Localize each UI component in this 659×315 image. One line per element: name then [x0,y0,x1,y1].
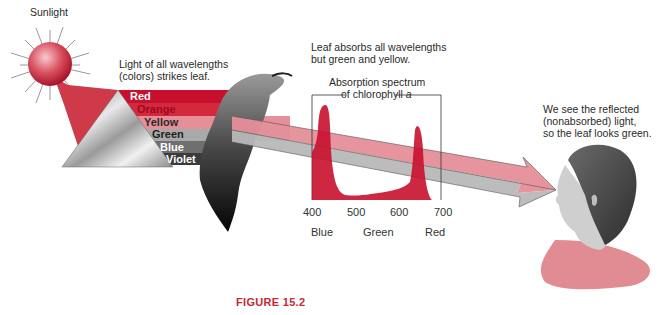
band-label-green: Green [152,128,184,140]
region-green: Green [363,226,394,238]
tick-700: 700 [434,206,452,218]
region-red: Red [425,226,445,238]
figure-caption: FIGURE 15.2 [236,296,305,308]
band-label-blue: Blue [160,141,184,153]
band-label-red: Red [130,90,151,102]
see-label-line1: We see the reflected [543,103,639,115]
spectrum-title-italic: a [406,88,412,100]
tick-500: 500 [347,206,365,218]
spectrum-title-text: of chlorophyll [341,88,403,100]
strike-label-line1: Light of all wavelengths [119,58,228,70]
sunlight-label: Sunlight [30,6,68,18]
absorb-label-line2: but green and yellow. [311,53,410,65]
spectrum-title-line2: of chlorophyll a [341,88,412,100]
absorb-label-line1: Leaf absorbs all wavelengths [311,41,446,53]
band-label-yellow: Yellow [144,116,178,128]
strike-label-line2: (colors) strikes leaf. [119,70,210,82]
sun-icon [28,42,72,86]
tick-600: 600 [390,206,408,218]
band-label-violet: Violet [166,153,196,165]
spectrum-title-line1: Absorption spectrum [329,76,425,88]
see-label-line3: so the leaf looks green. [543,127,652,139]
band-label-orange: Orange [137,103,176,115]
region-blue: Blue [311,226,333,238]
see-label-line2: (nonabsorbed) light, [543,115,636,127]
leaf-stem [272,73,292,76]
ear [592,195,598,206]
tick-400: 400 [303,206,321,218]
observer-person [541,145,650,289]
